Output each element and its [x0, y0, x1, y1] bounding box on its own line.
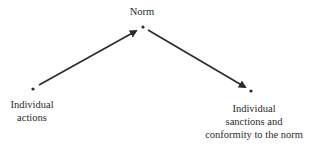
label-sanctions: Individual sanctions and conformity to t… [205, 102, 303, 141]
label-individual-actions: Individual actions [10, 98, 53, 124]
label-line: conformity to the norm [205, 128, 303, 141]
node-dot-norm [141, 25, 144, 28]
node-dot-individual-actions [31, 87, 34, 90]
arrow-actions-to-norm [39, 31, 136, 85]
label-line: Individual [10, 98, 53, 111]
diagram-canvas: Norm Individual actions Individual sanct… [0, 0, 318, 148]
label-line: sanctions and [205, 115, 303, 128]
node-dot-sanctions [249, 89, 252, 92]
label-norm: Norm [130, 5, 155, 18]
label-line: actions [10, 111, 53, 124]
label-line: Individual [205, 102, 303, 115]
label-line: Norm [130, 5, 155, 18]
arrow-norm-to-sanctions [148, 30, 245, 87]
